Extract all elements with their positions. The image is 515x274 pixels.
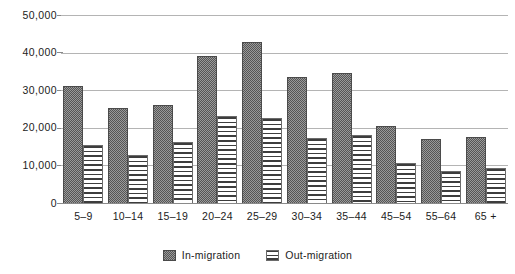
bar-out-migration-25-29 — [262, 118, 282, 203]
y-tick-label-10000: 10,000 — [3, 160, 57, 171]
x-tick-label-30-34: 30–34 — [285, 210, 330, 222]
bar-group-45-54 — [374, 15, 419, 203]
bar-in-migration-30-34 — [287, 77, 307, 203]
legend-swatch-in-migration-icon — [163, 250, 176, 261]
bar-group-30-34 — [285, 15, 330, 203]
legend-swatch-out-migration-icon — [266, 250, 279, 261]
x-tick-label-65-plus: 65 + — [463, 210, 508, 222]
bar-in-migration-65-plus — [466, 137, 486, 203]
x-tick-label-25-29: 25–29 — [240, 210, 285, 222]
y-tick-label-30000: 30,000 — [3, 85, 57, 96]
bar-groups — [61, 15, 508, 203]
x-axis-labels: 5–9 10–14 15–19 20–24 25–29 30–34 35–44 … — [61, 210, 508, 222]
bar-group-35-44 — [329, 15, 374, 203]
legend-label-out-migration: Out-migration — [285, 249, 352, 261]
bar-group-65-plus — [463, 15, 508, 203]
bar-in-migration-20-24 — [197, 56, 217, 203]
legend-label-in-migration: In-migration — [182, 249, 240, 261]
bar-group-15-19 — [150, 15, 195, 203]
x-tick-label-45-54: 45–54 — [374, 210, 419, 222]
bar-out-migration-45-54 — [396, 163, 416, 203]
legend-item-out-migration: Out-migration — [266, 249, 352, 261]
bar-group-25-29 — [240, 15, 285, 203]
x-tick-label-15-19: 15–19 — [150, 210, 195, 222]
bar-out-migration-35-44 — [352, 135, 372, 203]
bar-out-migration-20-24 — [217, 116, 237, 203]
y-tick-label-20000: 20,000 — [3, 122, 57, 133]
bar-out-migration-55-64 — [441, 171, 461, 203]
bar-group-5-9 — [61, 15, 106, 203]
x-tick-label-35-44: 35–44 — [329, 210, 374, 222]
y-tick-label-50000: 50,000 — [3, 10, 57, 21]
bar-group-55-64 — [419, 15, 464, 203]
bar-out-migration-65-plus — [486, 168, 506, 203]
bar-in-migration-10-14 — [108, 108, 128, 203]
x-tick-label-20-24: 20–24 — [195, 210, 240, 222]
bar-group-10-14 — [106, 15, 151, 203]
bar-in-migration-25-29 — [242, 42, 262, 203]
x-tick-label-55-64: 55–64 — [419, 210, 464, 222]
bar-in-migration-15-19 — [153, 105, 173, 203]
chart-legend: In-migration Out-migration — [0, 249, 515, 261]
bar-out-migration-10-14 — [128, 155, 148, 203]
bar-in-migration-45-54 — [376, 126, 396, 203]
y-tick-label-40000: 40,000 — [3, 47, 57, 58]
y-tick-label-0: 0 — [3, 198, 57, 209]
bar-in-migration-5-9 — [63, 86, 83, 203]
bar-out-migration-30-34 — [307, 138, 327, 203]
x-tick-label-10-14: 10–14 — [106, 210, 151, 222]
bar-in-migration-35-44 — [332, 73, 352, 203]
bar-out-migration-15-19 — [173, 142, 193, 203]
migration-bar-chart: 50,000 40,000 30,000 20,000 10,000 0 — [0, 0, 515, 274]
bar-in-migration-55-64 — [421, 139, 441, 203]
legend-item-in-migration: In-migration — [163, 249, 240, 261]
axis-baseline — [61, 203, 508, 204]
bar-out-migration-5-9 — [83, 145, 103, 203]
x-tick-label-5-9: 5–9 — [61, 210, 106, 222]
bar-group-20-24 — [195, 15, 240, 203]
y-axis: 50,000 40,000 30,000 20,000 10,000 0 — [0, 0, 57, 274]
